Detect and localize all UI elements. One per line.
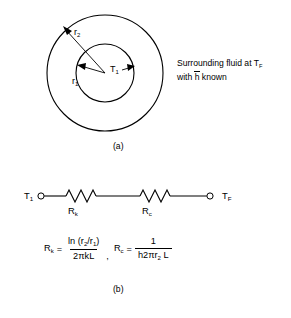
- caption-a: (a): [113, 141, 124, 151]
- label-node-TF: TF: [222, 190, 232, 202]
- h-bar-symbol: h: [195, 72, 200, 84]
- eq2-lhs: Rc: [114, 243, 124, 254]
- label-resistor-Rc: Rc: [142, 205, 152, 217]
- eq2-equals: =: [127, 244, 132, 254]
- node-terminal-left: [38, 193, 44, 199]
- label-T1-circle: T1: [110, 64, 119, 75]
- eq2-denominator: h2πr2 L: [135, 248, 172, 262]
- eq1-fraction: ln (r2/r1) 2πkL: [65, 236, 102, 261]
- resistor-Rc-symbol: [140, 190, 170, 202]
- label-node-T1: T1: [24, 190, 33, 202]
- figure-vector-layer: [0, 0, 291, 318]
- resistance-equations: Rk = ln (r2/r1) 2πkL , Rc = 1 h2πr2 L: [44, 236, 172, 261]
- eq2-numerator: 1: [148, 236, 159, 248]
- fluid-note-line-2: with h known: [177, 72, 262, 84]
- label-r1: r1: [72, 76, 78, 87]
- label-resistor-Rk: Rk: [68, 205, 78, 217]
- eq1-numerator: ln (r2/r1): [65, 236, 102, 249]
- node-terminal-right: [207, 193, 213, 199]
- resistor-Rk-symbol: [66, 190, 96, 202]
- eq2-fraction: 1 h2πr2 L: [135, 236, 172, 261]
- label-r2: r2: [74, 27, 80, 38]
- figure-container: r2 r1 T1 Surrounding fluid at TF with h …: [0, 0, 291, 318]
- eq1-denominator: 2πkL: [70, 249, 97, 262]
- fluid-note-line-1: Surrounding fluid at TF: [177, 58, 262, 72]
- caption-b: (b): [113, 284, 124, 294]
- thermal-resistance-network: [38, 190, 213, 202]
- eq1-equals: =: [57, 244, 62, 254]
- eq1-lhs: Rk: [44, 243, 54, 254]
- surrounding-fluid-note: Surrounding fluid at TF with h known: [177, 58, 262, 84]
- equation-separator: ,: [105, 251, 111, 261]
